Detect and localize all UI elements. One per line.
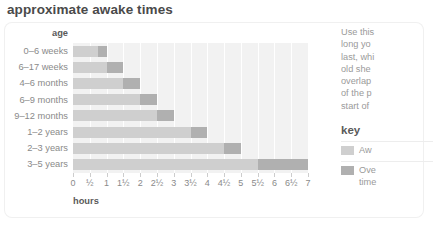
x-axis-tick [207, 173, 208, 177]
side-panel: Use thislong yolast, whiold sheoverlapof… [341, 23, 433, 217]
y-axis-tick-label: 6–9 months [5, 92, 73, 108]
x-axis-tick [291, 173, 292, 177]
x-axis-tick-label: 3 [171, 178, 176, 188]
side-paragraph-line: overlap [341, 75, 374, 87]
x-axis: 0½11½22½33½44½55½66½7 [73, 173, 308, 195]
bar-chart: age 0–6 weeks6–17 weeks4–6 months6–9 mon… [5, 23, 335, 217]
bar-segment-overtired [140, 94, 157, 105]
y-axis-tick-label: 3–5 years [5, 156, 73, 172]
bar [73, 110, 174, 121]
side-paragraph-line: of the p [341, 87, 374, 99]
bar [73, 127, 207, 138]
y-axis-tick-label: 1–2 years [5, 124, 73, 140]
x-axis-tick-label: 4½ [218, 178, 231, 188]
bar [73, 46, 107, 57]
side-paragraph-line: start of [341, 100, 374, 112]
bar [73, 143, 241, 154]
bar-segment-overtired [98, 46, 106, 57]
bar-segment-awake [73, 94, 140, 105]
bar-segment-awake [73, 46, 98, 57]
x-axis-tick [241, 173, 242, 177]
y-axis-tick-label: 9–12 months [5, 108, 73, 124]
bar-segment-awake [73, 143, 224, 154]
bar-segment-awake [73, 159, 258, 170]
bar [73, 62, 123, 73]
x-axis-label: hours [73, 196, 99, 206]
x-axis-tick [174, 173, 175, 177]
bar [73, 159, 308, 170]
key-swatch [341, 146, 354, 155]
y-axis-tick-label: 2–3 years [5, 140, 73, 156]
key-label-wrap: Ovetime [359, 165, 376, 188]
bar-segment-awake [73, 127, 191, 138]
x-axis-tick [224, 173, 225, 177]
x-axis-tick-label: 0 [70, 178, 75, 188]
bar-segment-overtired [123, 78, 140, 89]
key-label: Aw [359, 145, 372, 157]
x-axis-tick-label: 4 [205, 178, 210, 188]
bar [73, 78, 140, 89]
y-axis-header: age [5, 28, 73, 38]
x-axis-tick-label: 1 [104, 178, 109, 188]
side-paragraph-line: old she [341, 63, 374, 75]
x-axis-tick [140, 173, 141, 177]
plot-area [73, 43, 308, 173]
x-axis-tick-label: 2½ [151, 178, 164, 188]
x-axis-tick [308, 173, 309, 177]
bar-row [73, 92, 308, 108]
bar-segment-overtired [191, 127, 208, 138]
y-axis-tick-label: 0–6 weeks [5, 43, 73, 59]
bar-segment-overtired [107, 62, 124, 73]
side-paragraph-line: Use this [341, 26, 374, 38]
side-paragraph-line: long yo [341, 38, 374, 50]
bar-row [73, 59, 308, 75]
bar-segment-awake [73, 62, 107, 73]
bar-segment-awake [73, 110, 157, 121]
y-axis-tick-label: 6–17 weeks [5, 59, 73, 75]
x-axis-tick [258, 173, 259, 177]
y-axis-tick-label: 4–6 months [5, 75, 73, 91]
x-axis-tick-label: 3½ [184, 178, 197, 188]
x-axis-tick [123, 173, 124, 177]
x-axis-tick-label: ½ [86, 178, 94, 188]
x-axis-tick-label: 1½ [117, 178, 130, 188]
x-axis-tick [73, 173, 74, 177]
x-axis-tick-label: 6 [272, 178, 277, 188]
x-axis-tick [157, 173, 158, 177]
bar-row [73, 108, 308, 124]
x-axis-tick [107, 173, 108, 177]
x-axis-tick-label: 7 [305, 178, 310, 188]
key-swatch [341, 166, 354, 175]
x-axis-tick-label: 5 [238, 178, 243, 188]
x-axis-tick-label: 2 [138, 178, 143, 188]
key-label-wrap: Aw [359, 145, 372, 157]
bar-row [73, 43, 308, 59]
bar-row [73, 75, 308, 91]
bar-row [73, 140, 308, 156]
key-item[interactable]: Ovetime [341, 161, 433, 188]
bar [73, 94, 157, 105]
x-axis-tick [191, 173, 192, 177]
page-title: approximate awake times [7, 2, 173, 17]
key-label-line2: time [359, 177, 376, 189]
bar-segment-overtired [258, 159, 308, 170]
key-item[interactable]: Aw [341, 141, 433, 157]
bar-segment-overtired [157, 110, 174, 121]
bar-segment-overtired [224, 143, 241, 154]
x-axis-tick-label: 6½ [285, 178, 298, 188]
side-paragraph-line: last, whi [341, 51, 374, 63]
x-axis-tick [274, 173, 275, 177]
key-title: key [341, 124, 360, 136]
bar-segment-awake [73, 78, 123, 89]
key-label: Ove [359, 165, 376, 177]
bar-row [73, 156, 308, 172]
x-axis-tick [90, 173, 91, 177]
gridline [308, 43, 309, 173]
chart-card: age 0–6 weeks6–17 weeks4–6 months6–9 mon… [5, 23, 423, 217]
y-axis-labels: 0–6 weeks6–17 weeks4–6 months6–9 months9… [5, 43, 73, 173]
x-axis-tick-label: 5½ [251, 178, 264, 188]
bar-row [73, 124, 308, 140]
side-paragraph: Use thislong yolast, whiold sheoverlapof… [341, 26, 374, 112]
